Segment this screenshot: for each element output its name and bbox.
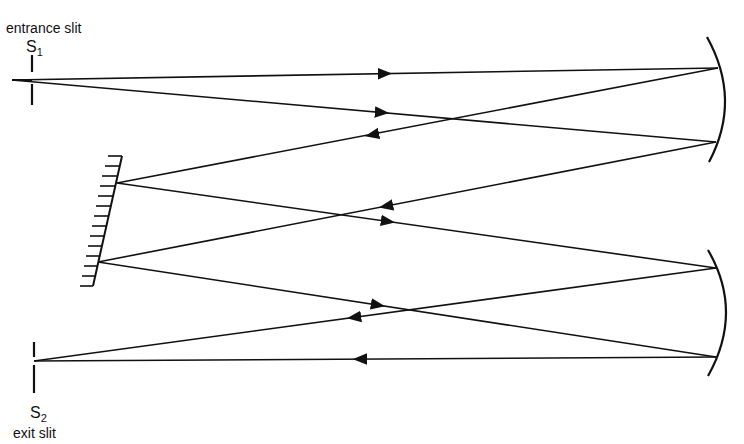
ray-grating-to-mirror-upper (117, 183, 716, 268)
ray-mirror-to-grating-lower (98, 142, 716, 262)
spectrometer-diagram (0, 0, 744, 444)
ray-mirror-to-grating-upper (117, 68, 718, 183)
ray-mirror-to-s2-upper (34, 268, 716, 361)
diffraction-grating (80, 156, 122, 286)
ray-mirror-to-s2-lower (34, 357, 716, 361)
ray-s1-to-mirror-top (12, 68, 718, 80)
